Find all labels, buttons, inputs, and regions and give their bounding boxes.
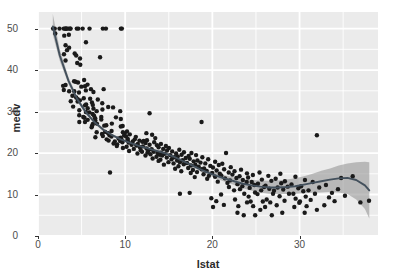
data-point	[171, 161, 175, 165]
data-point	[179, 169, 183, 173]
y-tick-label: 40	[0, 65, 18, 75]
data-point	[258, 208, 262, 212]
data-point	[332, 199, 336, 203]
data-point	[68, 26, 72, 30]
data-point	[108, 170, 112, 174]
data-point	[62, 52, 66, 56]
data-point	[233, 197, 237, 201]
data-point	[227, 185, 231, 189]
data-point	[251, 204, 255, 208]
data-point	[336, 187, 340, 191]
data-point	[120, 26, 124, 30]
x-axis-title: lstat	[38, 258, 378, 270]
data-point	[280, 211, 284, 215]
data-point	[330, 191, 334, 195]
y-axis-title: medv	[10, 78, 22, 158]
data-point	[277, 194, 281, 198]
data-point	[127, 149, 131, 153]
data-point	[177, 148, 181, 152]
data-point	[206, 157, 210, 161]
data-point	[351, 174, 355, 178]
data-point	[205, 177, 209, 181]
data-point	[303, 178, 307, 182]
data-point	[291, 191, 295, 195]
y-tick-mark	[35, 195, 38, 196]
data-point	[264, 197, 268, 201]
data-point	[293, 196, 297, 200]
data-point	[106, 138, 110, 142]
data-point	[211, 165, 215, 169]
data-point	[343, 194, 347, 198]
data-point	[269, 179, 273, 183]
data-point	[78, 62, 82, 66]
data-point	[367, 199, 371, 203]
data-point	[219, 192, 223, 196]
data-point	[165, 155, 169, 159]
data-point	[80, 26, 84, 30]
x-tick-label: 10	[105, 240, 145, 250]
data-point	[77, 90, 81, 94]
data-point	[273, 177, 277, 181]
data-point	[222, 203, 226, 207]
data-point	[178, 191, 182, 195]
data-point	[302, 211, 306, 215]
y-tick-mark	[35, 153, 38, 154]
data-point	[253, 213, 257, 217]
data-point	[214, 168, 218, 172]
data-point	[259, 188, 263, 192]
data-point	[150, 156, 154, 160]
data-point	[74, 53, 78, 57]
data-point	[195, 170, 199, 174]
x-tick-label: 20	[192, 240, 232, 250]
data-point	[98, 55, 102, 59]
data-point	[255, 192, 259, 196]
data-point	[99, 117, 103, 121]
data-point	[77, 120, 81, 124]
data-point	[213, 160, 217, 164]
data-point	[100, 101, 104, 105]
data-point	[230, 172, 234, 176]
data-point	[62, 33, 66, 37]
data-point	[297, 201, 301, 205]
data-point	[201, 172, 205, 176]
data-point	[199, 120, 203, 124]
plot-panel	[38, 12, 378, 236]
data-point	[217, 163, 221, 167]
data-point	[251, 173, 255, 177]
data-point	[222, 167, 226, 171]
data-point	[96, 97, 100, 101]
x-tick-label: 30	[280, 240, 320, 250]
data-point	[209, 196, 213, 200]
data-point	[315, 208, 319, 212]
data-point	[79, 84, 83, 88]
data-point	[148, 152, 152, 156]
data-point	[282, 199, 286, 203]
data-point	[358, 200, 362, 204]
data-point	[87, 26, 91, 30]
data-point	[187, 191, 191, 195]
data-point	[147, 111, 151, 115]
data-point	[266, 174, 270, 178]
data-point	[200, 155, 204, 159]
data-point	[278, 172, 282, 176]
data-point	[106, 105, 110, 109]
data-point	[143, 153, 147, 157]
data-point	[91, 90, 95, 94]
data-point	[85, 106, 89, 110]
data-point	[147, 143, 151, 147]
x-tick-mark	[125, 236, 126, 239]
data-point	[245, 171, 249, 175]
data-point	[121, 146, 125, 150]
data-point	[135, 151, 139, 155]
plot-canvas	[38, 12, 378, 236]
data-point	[76, 80, 80, 84]
data-point	[198, 160, 202, 164]
data-point	[238, 187, 242, 191]
data-point	[173, 167, 177, 171]
data-point	[104, 26, 108, 30]
data-point	[317, 185, 321, 189]
data-point	[67, 33, 71, 37]
data-point	[119, 124, 123, 128]
data-point	[234, 176, 238, 180]
y-tick-label: 50	[0, 24, 18, 34]
